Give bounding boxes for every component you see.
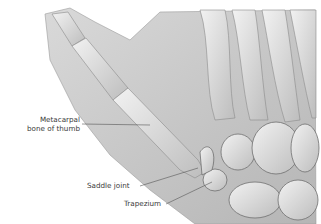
- label-line: Metacarpal: [27, 115, 80, 124]
- label-metacarpal-bone: Metacarpal bone of thumb: [27, 115, 80, 133]
- label-trapezium: Trapezium: [124, 199, 161, 208]
- label-line: Saddle joint: [87, 181, 130, 190]
- label-line: Trapezium: [124, 199, 161, 208]
- anatomy-figure: Metacarpal bone of thumb Saddle joint Tr…: [0, 0, 321, 224]
- label-saddle-joint: Saddle joint: [87, 181, 130, 190]
- hand-illustration: [0, 0, 321, 224]
- label-line: bone of thumb: [27, 124, 80, 133]
